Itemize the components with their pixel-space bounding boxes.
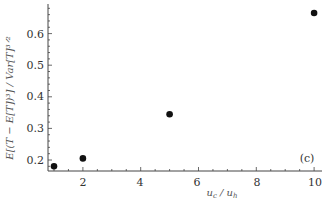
ytick-label: 0.3 (27, 122, 45, 135)
xtick-label: 2 (80, 176, 87, 189)
xtick-label: 4 (137, 176, 144, 189)
data-point (166, 111, 173, 118)
ytick-label: 0.2 (27, 154, 45, 167)
y-ticks (48, 8, 52, 166)
panel-label: (c) (300, 152, 315, 165)
xtick-label: 6 (194, 176, 201, 189)
x-ticks (54, 167, 314, 171)
data-points (51, 10, 318, 170)
ytick-label: 0.5 (27, 59, 45, 72)
data-point (80, 155, 87, 162)
xtick-label: 10 (308, 176, 322, 189)
data-point (51, 163, 58, 170)
x-axis-label: uc / uh (206, 187, 237, 200)
ytick-label: 0.4 (27, 90, 45, 103)
data-point (311, 10, 318, 17)
y-axis-label: E[(T − E[T])³] / Var[T]³ᐟ² (4, 36, 15, 160)
chart-canvas: 0.6 0.5 0.4 0.3 0.2 2 4 6 8 10 uc / uh E… (0, 0, 333, 203)
xtick-label: 8 (254, 176, 261, 189)
ytick-label: 0.6 (27, 28, 45, 41)
